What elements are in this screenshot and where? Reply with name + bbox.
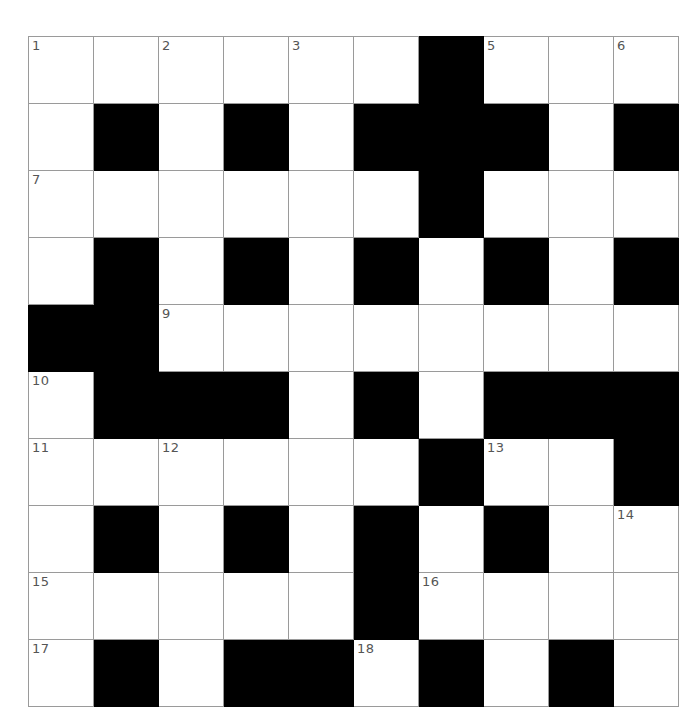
crossword-cell[interactable]: [289, 171, 354, 238]
crossword-row: 111213: [29, 439, 679, 506]
crossword-cell[interactable]: [549, 171, 614, 238]
crossword-block-cell: [289, 640, 354, 707]
crossword-block-cell: [614, 238, 679, 305]
crossword-cell[interactable]: 10: [29, 372, 94, 439]
crossword-cell[interactable]: [549, 37, 614, 104]
crossword-cell[interactable]: [289, 104, 354, 171]
crossword-cell[interactable]: 1: [29, 37, 94, 104]
crossword-cell[interactable]: [94, 573, 159, 640]
crossword-block-cell: [484, 372, 549, 439]
cell-number: 1: [32, 38, 41, 53]
cell-number: 6: [617, 38, 626, 53]
crossword-cell[interactable]: [29, 506, 94, 573]
crossword-block-cell: [94, 506, 159, 573]
crossword-block-cell: [354, 238, 419, 305]
crossword-row: 123456: [29, 37, 679, 104]
crossword-grid-container[interactable]: 123456789101112131415161718: [28, 36, 679, 707]
crossword-cell[interactable]: [419, 372, 484, 439]
crossword-cell[interactable]: [549, 238, 614, 305]
cell-number: 9: [162, 306, 171, 321]
crossword-cell[interactable]: [224, 573, 289, 640]
crossword-cell[interactable]: [614, 573, 679, 640]
crossword-cell[interactable]: [419, 238, 484, 305]
crossword-cell[interactable]: [159, 104, 224, 171]
crossword-block-cell: 8: [419, 171, 484, 238]
crossword-cell[interactable]: [354, 171, 419, 238]
crossword-cell[interactable]: 7: [29, 171, 94, 238]
cell-number: 17: [32, 641, 50, 656]
crossword-block-cell: [224, 506, 289, 573]
crossword-cell[interactable]: [549, 439, 614, 506]
crossword-cell[interactable]: [484, 640, 549, 707]
cell-number: 7: [32, 172, 41, 187]
crossword-cell[interactable]: [289, 573, 354, 640]
crossword-cell[interactable]: [484, 573, 549, 640]
crossword-cell[interactable]: [549, 573, 614, 640]
cell-number: 14: [617, 507, 635, 522]
crossword-cell[interactable]: 6: [614, 37, 679, 104]
crossword-row: [29, 104, 679, 171]
crossword-cell[interactable]: [94, 439, 159, 506]
crossword-cell[interactable]: [224, 171, 289, 238]
crossword-cell[interactable]: [354, 37, 419, 104]
crossword-cell[interactable]: [549, 104, 614, 171]
crossword-cell[interactable]: [224, 439, 289, 506]
crossword-cell[interactable]: [224, 305, 289, 372]
crossword-cell[interactable]: [289, 372, 354, 439]
crossword-block-cell: [354, 372, 419, 439]
crossword-cell[interactable]: 15: [29, 573, 94, 640]
cell-number: 5: [487, 38, 496, 53]
crossword-block-cell: [224, 372, 289, 439]
cell-number: 3: [292, 38, 301, 53]
cell-number: 12: [162, 440, 180, 455]
crossword-cell[interactable]: 16: [419, 573, 484, 640]
crossword-cell[interactable]: [289, 506, 354, 573]
crossword-block-cell: [419, 640, 484, 707]
crossword-cell[interactable]: [419, 506, 484, 573]
crossword-cell[interactable]: 11: [29, 439, 94, 506]
crossword-cell[interactable]: [289, 439, 354, 506]
crossword-cell[interactable]: [94, 171, 159, 238]
crossword-cell[interactable]: 17: [29, 640, 94, 707]
crossword-cell[interactable]: [614, 305, 679, 372]
crossword-cell[interactable]: [159, 506, 224, 573]
crossword-cell[interactable]: [289, 238, 354, 305]
crossword-cell[interactable]: 14: [614, 506, 679, 573]
crossword-cell[interactable]: [289, 305, 354, 372]
cell-number: 4: [422, 38, 431, 53]
crossword-cell[interactable]: 12: [159, 439, 224, 506]
crossword-grid-body: 123456789101112131415161718: [29, 37, 679, 707]
crossword-cell[interactable]: [159, 238, 224, 305]
crossword-cell[interactable]: [484, 305, 549, 372]
crossword-cell[interactable]: [419, 305, 484, 372]
crossword-grid[interactable]: 123456789101112131415161718: [28, 36, 679, 707]
crossword-cell[interactable]: [484, 171, 549, 238]
crossword-block-cell: [94, 640, 159, 707]
cell-number: 2: [162, 38, 171, 53]
crossword-block-cell: [549, 372, 614, 439]
crossword-block-cell: [29, 305, 94, 372]
crossword-block-cell: [224, 238, 289, 305]
crossword-cell[interactable]: [29, 238, 94, 305]
crossword-cell[interactable]: 5: [484, 37, 549, 104]
crossword-cell[interactable]: 18: [354, 640, 419, 707]
crossword-cell[interactable]: [549, 305, 614, 372]
crossword-cell[interactable]: [29, 104, 94, 171]
crossword-cell[interactable]: [354, 439, 419, 506]
crossword-cell[interactable]: [224, 37, 289, 104]
crossword-block-cell: [94, 104, 159, 171]
crossword-cell[interactable]: [614, 171, 679, 238]
crossword-cell[interactable]: [549, 506, 614, 573]
crossword-cell[interactable]: [614, 640, 679, 707]
crossword-cell[interactable]: 3: [289, 37, 354, 104]
crossword-cell[interactable]: [159, 573, 224, 640]
crossword-cell[interactable]: [94, 37, 159, 104]
crossword-block-cell: [549, 640, 614, 707]
crossword-block-cell: [614, 372, 679, 439]
crossword-cell[interactable]: [159, 640, 224, 707]
crossword-cell[interactable]: 13: [484, 439, 549, 506]
crossword-cell[interactable]: [159, 171, 224, 238]
crossword-cell[interactable]: 2: [159, 37, 224, 104]
crossword-cell[interactable]: [354, 305, 419, 372]
crossword-cell[interactable]: 9: [159, 305, 224, 372]
